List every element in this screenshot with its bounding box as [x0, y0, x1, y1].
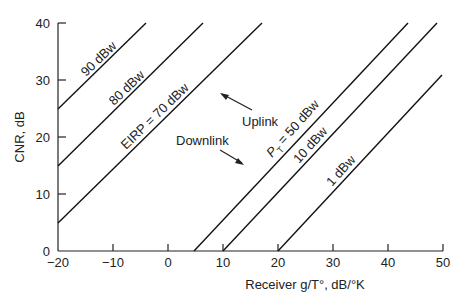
- line-90dbw: [58, 23, 146, 109]
- downlink-label: Downlink: [176, 133, 229, 148]
- line-70dbw: [58, 23, 262, 223]
- uplink-arrowhead-icon: [220, 93, 229, 100]
- y-tick-label: 40: [36, 16, 50, 31]
- x-tick-label: −10: [102, 255, 124, 270]
- y-tick-label: 30: [36, 73, 50, 88]
- x-axis-label: Receiver g/T°, dB/°K: [245, 277, 365, 292]
- x-tick-label: 30: [326, 255, 340, 270]
- x-tick-label: 0: [164, 255, 171, 270]
- y-ticks: 40 30 20 10 0: [36, 16, 66, 259]
- cnr-chart: 40 30 20 10 0 −20 −10 0 10 20 30 40 50 C…: [0, 0, 464, 307]
- line-10dbw: [223, 23, 437, 251]
- y-tick-label: 20: [36, 130, 50, 145]
- x-tick-label: 10: [216, 255, 230, 270]
- x-tick-label: 40: [381, 255, 395, 270]
- x-tick-label: −20: [47, 255, 69, 270]
- y-axis-label: CNR, dB: [12, 111, 27, 162]
- uplink-label: Uplink: [242, 114, 279, 129]
- label-90dbw: 90 dBw: [78, 38, 120, 79]
- label-80dbw: 80 dBw: [106, 67, 148, 108]
- x-tick-label: 50: [436, 255, 450, 270]
- x-tick-label: 20: [271, 255, 285, 270]
- x-ticks: −20 −10 0 10 20 30 40 50: [47, 244, 450, 270]
- y-tick-label: 10: [36, 187, 50, 202]
